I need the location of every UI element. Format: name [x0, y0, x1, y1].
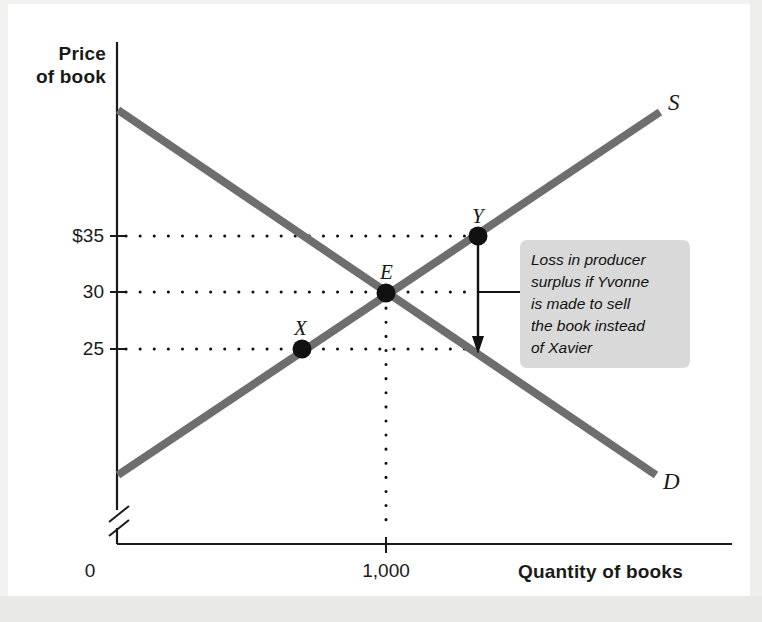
point-x-marker: [293, 340, 312, 359]
supply-curve-label: S: [668, 90, 680, 116]
point-y-label: Y: [472, 204, 484, 229]
y-tick-label-35: $35: [26, 225, 104, 247]
page-right-edge: [750, 0, 762, 600]
page-bottom-edge: [0, 596, 762, 622]
y-tick-label-30: 30: [26, 281, 104, 303]
axis-break-icon-2: [109, 520, 129, 536]
point-y-marker: [469, 227, 488, 246]
figure-card: Price of book $35 30 25 0 1,000 Quantity…: [8, 4, 750, 596]
axis-break-icon: [109, 506, 129, 522]
x-tick-label-1000: 1,000: [336, 560, 436, 582]
figure-page: Price of book $35 30 25 0 1,000 Quantity…: [0, 0, 762, 622]
point-e-label: E: [380, 260, 393, 285]
loss-in-producer-surplus-callout: Loss in producer surplus if Yvonne is ma…: [520, 240, 690, 368]
point-e-marker: [377, 284, 396, 303]
callout-text: Loss in producer surplus if Yvonne is ma…: [531, 249, 680, 359]
x-axis-title: Quantity of books: [518, 560, 683, 583]
point-x-label: X: [294, 316, 307, 341]
origin-label: 0: [70, 560, 110, 582]
y-tick-label-25: 25: [26, 338, 104, 360]
demand-curve-label: D: [663, 469, 680, 495]
y-axis-title: Price of book: [30, 42, 106, 88]
